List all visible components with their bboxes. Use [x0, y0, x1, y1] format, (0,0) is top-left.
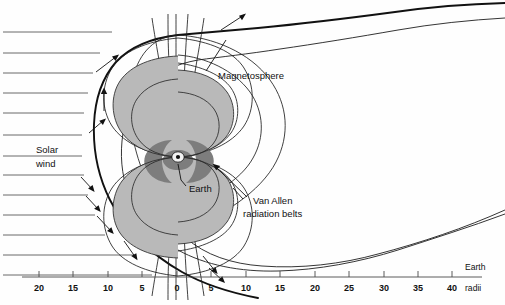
axis-tick-label: 5 [139, 283, 144, 293]
label-van-allen-line1: Van Allen [253, 195, 292, 206]
axis-tick-label: 25 [344, 283, 354, 293]
axis-tick-label: 20 [34, 283, 44, 293]
label-solar-wind-line1: Solar [36, 144, 58, 155]
axis-tick-label: 30 [379, 283, 389, 293]
axis-tick-label: 5 [208, 283, 213, 293]
label-magnetosphere: Magnetosphere [218, 70, 284, 81]
axis-tick-label: 40 [447, 283, 457, 293]
magnetosphere-diagram: Magnetosphere Solar wind Earth Van Allen… [0, 0, 505, 305]
axis-tick-label: 15 [275, 283, 285, 293]
axis-tick-label: 15 [68, 283, 78, 293]
label-van-allen-line2: radiation belts [243, 208, 302, 219]
label-solar-wind-line2: wind [35, 158, 56, 169]
axis-tick-label: 10 [103, 283, 113, 293]
axis-tick-label: 20 [310, 283, 320, 293]
axis-tick-label: 35 [413, 283, 423, 293]
earth-body [172, 152, 184, 162]
axis-unit-line1: Earth [465, 262, 486, 272]
axis-tick-label: 10 [241, 283, 251, 293]
earth-radii-axis: 20 15 10 5 0 5 10 15 20 25 30 35 40 Eart… [22, 262, 486, 293]
axis-tick-label: 0 [174, 283, 179, 293]
axis-unit-line2: radii [465, 283, 481, 293]
label-earth: Earth [189, 183, 212, 194]
axis-tick-labels: 20 15 10 5 0 5 10 15 20 25 30 35 40 [34, 283, 457, 293]
axis-ticks [39, 271, 452, 277]
